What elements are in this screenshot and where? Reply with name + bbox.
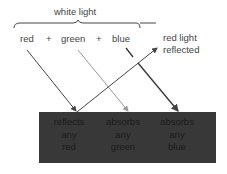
col-text: green xyxy=(95,141,151,154)
blue-label: blue xyxy=(112,33,130,44)
white-light-label: white light xyxy=(54,6,96,17)
surface-column-green: absorbs any green xyxy=(95,116,151,154)
col-text: any xyxy=(149,129,205,142)
col-text: absorbs xyxy=(149,116,205,129)
white-light-brace xyxy=(14,20,156,28)
green-label: green xyxy=(61,33,85,44)
blue-arrow xyxy=(138,63,178,111)
reflected-label: red light reflected xyxy=(163,32,199,56)
blue-arrow-top xyxy=(126,48,133,57)
col-text: absorbs xyxy=(95,116,151,129)
plus-sign: + xyxy=(96,33,102,44)
reflected-arrow xyxy=(77,48,157,112)
col-text: red xyxy=(41,141,97,154)
col-text: blue xyxy=(149,141,205,154)
col-text: reflects xyxy=(41,116,97,129)
col-text: any xyxy=(41,129,97,142)
surface-column-blue: absorbs any blue xyxy=(149,116,205,154)
red-label: red xyxy=(20,33,34,44)
red-surface: reflects any red absorbs any green absor… xyxy=(39,112,216,163)
reflected-line-1: red light xyxy=(163,32,199,44)
green-arrow xyxy=(78,50,128,111)
plus-sign: + xyxy=(46,33,52,44)
reflected-line-2: reflected xyxy=(163,44,199,56)
surface-column-red: reflects any red xyxy=(41,116,97,154)
red-arrow xyxy=(27,50,76,111)
col-text: any xyxy=(95,129,151,142)
